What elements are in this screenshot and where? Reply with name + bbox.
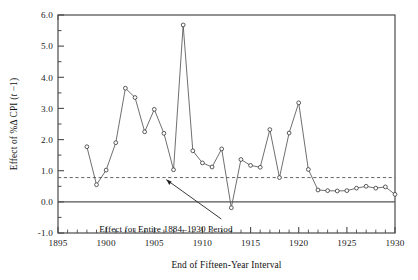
data-point [326,189,330,193]
y-axis-title-suffix: ) [9,78,20,81]
line-chart-canvas: 6.0 5.0 4.0 3.0 2.0 1.0 0.0 -1.0 [0,0,418,280]
data-point [104,168,108,172]
y-tick-label: 0.0 [41,197,53,207]
annotation-label: Effect for Entire 1884–1930 Period [99,224,233,234]
data-point [268,128,272,132]
y-tick-label: 4.0 [41,73,53,83]
y-axis-title-prefix: Effect of %Δ CPI ( [9,97,20,171]
data-point [114,141,118,145]
data-point [162,131,166,135]
data-point [335,189,339,193]
x-tick-label: 1910 [193,238,212,248]
x-tick-label: 1930 [385,238,404,248]
x-axis-tick-labels: 1895 1900 1905 1910 1915 1920 1925 1930 [48,238,404,248]
data-point [95,183,99,187]
data-point [143,130,147,134]
data-point [258,165,262,169]
y-axis-tick-labels: 6.0 5.0 4.0 3.0 2.0 1.0 0.0 -1.0 [38,10,54,238]
data-point [287,131,291,135]
x-tick-label: 1900 [97,238,116,248]
data-point [152,107,156,111]
data-point [172,168,176,172]
data-point [220,147,224,151]
x-tick-label: 1905 [145,238,164,248]
data-point [191,149,195,153]
data-point [374,186,378,190]
y-tick-label: 2.0 [41,135,53,145]
x-tick-label: 1925 [337,238,356,248]
data-point [181,23,185,27]
data-point [306,168,310,172]
data-point [297,101,301,105]
svg-text:Effect of %Δ CPI (t −1): Effect of %Δ CPI (t −1) [9,78,20,170]
y-axis-title-middle: −1 [9,81,19,94]
data-point [85,145,89,149]
y-tick-label: 6.0 [41,10,53,20]
x-tick-label: 1920 [289,238,308,248]
data-point [239,158,243,162]
data-point [345,189,349,193]
data-point [124,86,128,90]
plot-frame [58,15,395,233]
data-point [210,165,214,169]
data-point [278,176,282,180]
data-point [383,185,387,189]
x-tick-label: 1895 [48,238,67,248]
data-point [393,192,397,196]
x-axis-title: End of Fifteen-Year Interval [171,260,281,270]
data-point [249,164,253,168]
y-tick-label: 3.0 [41,104,53,114]
data-point [364,184,368,188]
chart-figure: 6.0 5.0 4.0 3.0 2.0 1.0 0.0 -1.0 [0,0,418,280]
y-axis-title: Effect of %Δ CPI (t −1) [9,78,20,170]
y-tick-label: 1.0 [41,166,53,176]
data-point [133,96,137,100]
data-point [355,186,359,190]
data-point [201,161,205,165]
x-tick-label: 1915 [241,238,260,248]
y-tick-label: 5.0 [41,41,53,51]
data-point [316,188,320,192]
data-point [229,206,233,210]
